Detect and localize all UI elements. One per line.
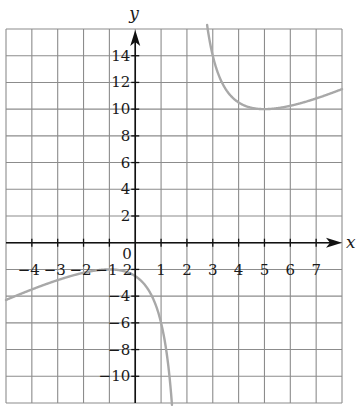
y-tick-label: 2 <box>123 261 133 279</box>
x-tick-label: −3 <box>44 261 66 279</box>
y-tick-label: 10 <box>111 100 130 118</box>
y-tick-label: 2 <box>121 207 131 225</box>
x-axis-label: x <box>346 232 356 252</box>
x-tick-label: 1 <box>156 261 166 279</box>
origin-label: 0 <box>122 245 132 263</box>
y-tick-label: 8 <box>121 127 131 145</box>
curve-branch <box>6 269 172 404</box>
y-tick-label: −4 <box>108 287 130 305</box>
function-graph: −4−3−2−112345671412108642−4−6−8−102 x y … <box>0 0 356 409</box>
x-tick-label: −4 <box>18 261 40 279</box>
x-tick-label: −2 <box>69 261 91 279</box>
x-tick-label: −1 <box>95 261 117 279</box>
x-tick-label: 6 <box>286 261 296 279</box>
y-tick-label: 6 <box>121 154 131 172</box>
x-tick-label: 3 <box>208 261 218 279</box>
y-tick-label: 12 <box>111 73 130 91</box>
x-tick-label: 2 <box>182 261 192 279</box>
y-tick-label: 14 <box>111 47 130 65</box>
grid-lines <box>6 29 342 403</box>
y-tick-label: −10 <box>99 367 131 385</box>
y-tick-label: −8 <box>108 341 130 359</box>
y-axis-label: y <box>128 3 139 23</box>
y-tick-label: 4 <box>121 180 131 198</box>
x-tick-label: 7 <box>311 261 321 279</box>
curve-branch <box>207 25 342 109</box>
y-tick-label: −6 <box>108 314 130 332</box>
x-tick-label: 4 <box>234 261 244 279</box>
x-tick-label: 5 <box>260 261 270 279</box>
